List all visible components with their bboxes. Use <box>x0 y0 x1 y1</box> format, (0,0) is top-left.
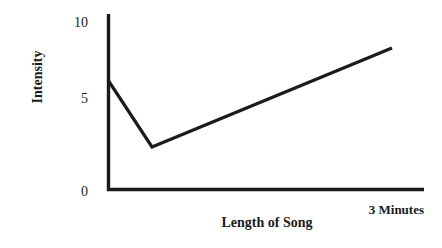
chart-page: 10 5 0 Intensity Length of Song 3 Minute… <box>0 0 442 248</box>
line-chart: 10 5 0 Intensity Length of Song 3 Minute… <box>0 0 442 248</box>
y-axis-title: Intensity <box>30 51 45 104</box>
y-tick-label-10: 10 <box>74 15 88 30</box>
x-axis-end-label: 3 Minutes <box>369 202 424 217</box>
y-tick-label-0: 0 <box>81 184 88 199</box>
x-axis-title: Length of Song <box>221 215 312 230</box>
y-tick-label-5: 5 <box>81 91 88 106</box>
